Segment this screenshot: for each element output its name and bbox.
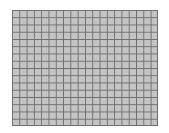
grid-pattern: [12, 10, 158, 126]
